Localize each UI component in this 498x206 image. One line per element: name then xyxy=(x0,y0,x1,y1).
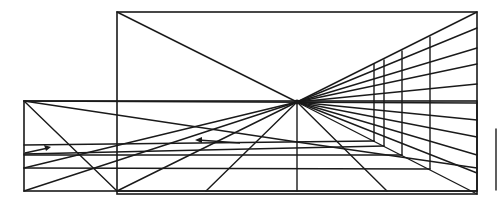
orthogonals-left xyxy=(24,102,477,194)
perspective-diagram xyxy=(0,0,498,206)
vanishing-point xyxy=(295,100,300,105)
floor-horizontals xyxy=(24,141,430,169)
arrow-right xyxy=(25,145,51,153)
right-wall-rays xyxy=(297,12,477,173)
